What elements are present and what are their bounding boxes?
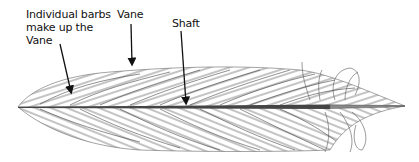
feather-diagram: Individual barbs make up the Vane Vane S… bbox=[0, 0, 419, 162]
label-shaft: Shaft bbox=[172, 17, 200, 30]
label-vane: Vane bbox=[117, 8, 143, 21]
label-individual-barbs: Individual barbs make up the Vane bbox=[26, 8, 121, 47]
arrow-vane bbox=[131, 24, 132, 64]
lower-vane bbox=[18, 106, 405, 152]
